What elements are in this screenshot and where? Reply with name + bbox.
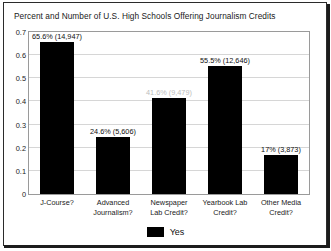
x-axis-category-label-line: Journalism? bbox=[85, 208, 141, 218]
x-axis-category-label: AdvancedJournalism? bbox=[85, 198, 141, 218]
x-axis-category-label: J-Course? bbox=[29, 198, 85, 208]
x-axis-category-label: Yearbook LabCredit? bbox=[197, 198, 253, 218]
x-axis-category-label: Other MediaCredit? bbox=[253, 198, 309, 218]
x-axis-category-label-line: Credit? bbox=[197, 208, 253, 218]
bar-data-label: 55.5% (12,646) bbox=[200, 56, 250, 65]
chart-figure: Percent and Number of U.S. High Schools … bbox=[0, 0, 331, 251]
y-axis-tick-label: 0.7 bbox=[16, 28, 26, 37]
bar-data-label: 41.6% (9,479) bbox=[146, 88, 192, 97]
bar-group: 17% (3,873) bbox=[264, 32, 298, 194]
y-axis-tick-label: 0.3 bbox=[16, 120, 26, 129]
bar[interactable] bbox=[96, 137, 130, 194]
bars-layer: 65.6% (14,947)24.6% (5,606)41.6% (9,479)… bbox=[29, 32, 309, 194]
bar[interactable] bbox=[152, 98, 186, 194]
x-axis-category-labels: J-Course?AdvancedJournalism?NewspaperLab… bbox=[29, 198, 309, 224]
figure-border-shadow-right bbox=[327, 4, 330, 248]
bar-group: 41.6% (9,479) bbox=[152, 32, 186, 194]
x-axis-category-label-line: Lab Credit? bbox=[141, 208, 197, 218]
bar-data-label: 17% (3,873) bbox=[261, 145, 301, 154]
bar-group: 55.5% (12,646) bbox=[208, 32, 242, 194]
x-axis-category-label-line: Advanced bbox=[85, 198, 141, 208]
y-axis-tick-label: 0.2 bbox=[16, 143, 26, 152]
bar-group: 65.6% (14,947) bbox=[40, 32, 74, 194]
bar-group: 24.6% (5,606) bbox=[96, 32, 130, 194]
x-axis-category-label-line: Other Media bbox=[253, 198, 309, 208]
y-axis-tick-label: 0.5 bbox=[16, 74, 26, 83]
bar[interactable] bbox=[264, 155, 298, 194]
chart-legend: Yes bbox=[0, 227, 331, 237]
legend-swatch-yes bbox=[147, 227, 164, 237]
bar[interactable] bbox=[40, 42, 74, 194]
y-axis-tick-label: 0.6 bbox=[16, 51, 26, 60]
y-axis-tick-label: 0.4 bbox=[16, 97, 26, 106]
chart-title: Percent and Number of U.S. High Schools … bbox=[14, 11, 314, 21]
legend-label-yes: Yes bbox=[170, 227, 185, 237]
bar-data-label: 24.6% (5,606) bbox=[90, 127, 136, 136]
x-axis-category-label-line: J-Course? bbox=[29, 198, 85, 208]
x-axis-category-label-line: Credit? bbox=[253, 208, 309, 218]
x-axis-category-label: NewspaperLab Credit? bbox=[141, 198, 197, 218]
x-axis-category-label-line: Newspaper bbox=[141, 198, 197, 208]
x-axis-category-label-line: Yearbook Lab bbox=[197, 198, 253, 208]
figure-border-shadow-bottom bbox=[4, 245, 329, 248]
y-axis-tick-label: 0.1 bbox=[16, 166, 26, 175]
y-axis-tick-labels: 00.10.20.30.40.50.60.7 bbox=[8, 31, 26, 195]
y-axis-tick-label: 0 bbox=[22, 190, 26, 199]
bar[interactable] bbox=[208, 66, 242, 194]
bar-data-label: 65.6% (14,947) bbox=[32, 32, 82, 41]
